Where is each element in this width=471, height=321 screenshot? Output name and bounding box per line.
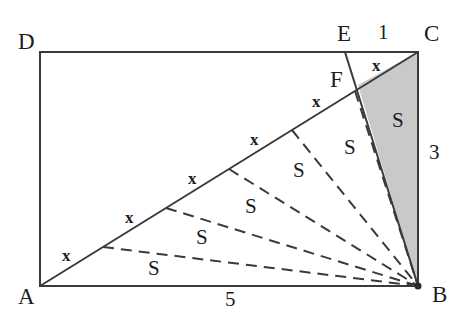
- vertex-label-C: C: [424, 22, 439, 45]
- area-mark-S-2: S: [196, 227, 208, 248]
- segment-mark-x-1: x: [62, 247, 71, 264]
- segment-mark-x-4: x: [250, 131, 259, 148]
- segment-mark-x-3: x: [188, 170, 197, 187]
- area-mark-S-4: S: [293, 160, 305, 181]
- vertex-label-E: E: [337, 22, 351, 45]
- geometry-figure: D A B C E F 5 3 1 x x x x x x S S S S S …: [0, 0, 471, 321]
- segment-length-EC: 1: [378, 22, 389, 43]
- area-mark-S-3: S: [245, 196, 257, 217]
- geometry-canvas: [0, 0, 471, 321]
- area-mark-S-6-shaded: S: [392, 110, 404, 131]
- segment-mark-x-2: x: [125, 209, 134, 226]
- side-length-AB: 5: [225, 289, 236, 310]
- vertex-dot-B: [415, 283, 422, 290]
- vertex-label-B: B: [432, 283, 447, 306]
- area-mark-S-5: S: [344, 137, 356, 158]
- side-length-BC: 3: [429, 142, 440, 163]
- segment-mark-x-5: x: [312, 93, 321, 110]
- vertex-label-A: A: [18, 285, 35, 308]
- vertex-label-F: F: [330, 68, 343, 91]
- shaded-triangle-FCB: [358, 52, 418, 286]
- area-mark-S-1: S: [148, 258, 160, 279]
- vertex-label-D: D: [18, 30, 35, 53]
- segment-mark-x-6: x: [372, 57, 381, 74]
